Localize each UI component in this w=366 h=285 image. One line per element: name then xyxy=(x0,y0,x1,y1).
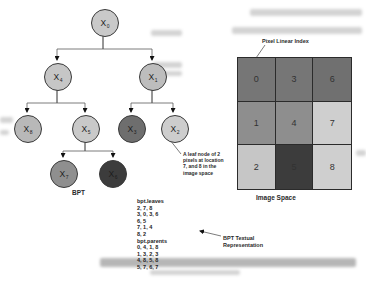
grid-cell-label: 2 xyxy=(254,162,259,172)
blurred-text-fragment xyxy=(0,117,13,123)
blurred-text-fragment xyxy=(0,130,9,135)
tree-node-label: X xyxy=(101,18,107,28)
textual-line: 7, 1, 4 xyxy=(137,224,167,231)
edge-x4-x8 xyxy=(27,89,57,112)
grid-cell-label: 0 xyxy=(254,74,259,84)
grid-cell-label: 1 xyxy=(254,118,259,128)
tree-node-label: X xyxy=(82,124,88,134)
textual-line: 6, 5 xyxy=(137,218,167,225)
node-subscript: 7 xyxy=(66,174,69,180)
bpt-textual-block: bpt.leaves 2, 7, 8 3, 0, 3, 6 6, 5 7, 1,… xyxy=(137,198,167,271)
bpt-figure: X0 X4 X1 X8 X5 X3 X2 X7 X6 BPT Pixel Lin… xyxy=(0,0,366,285)
tree-node-label: X xyxy=(54,72,60,82)
grid-cell-label: 5 xyxy=(291,162,296,172)
blurred-text-fragment xyxy=(356,150,366,156)
grid-cell-label: 7 xyxy=(330,118,335,128)
textual-line: 8, 2 xyxy=(137,231,167,238)
node-subscript: 5 xyxy=(88,129,91,135)
blurred-text-fragment xyxy=(232,27,362,34)
textual-line: 1, 3, 2, 3 xyxy=(137,251,167,258)
pixel-grid: 0 3 6 1 4 7 2 5 8 xyxy=(237,57,352,190)
grid-cell-0: 0 xyxy=(238,58,276,102)
node-subscript: 8 xyxy=(30,129,33,135)
grid-cell-label: 8 xyxy=(330,162,335,172)
blurred-text-fragment xyxy=(150,270,240,275)
tree-node-x0: X0 xyxy=(91,9,119,37)
node-subscript: 2 xyxy=(177,129,180,135)
tree-node-label: X xyxy=(149,72,155,82)
textual-line: bpt.parents xyxy=(137,238,167,245)
edge-x5-x7 xyxy=(63,141,85,157)
bpt-textual-representation-label: BPT Textual Representation xyxy=(223,235,263,248)
textual-line: 4, 8, 5, 8 xyxy=(137,257,167,264)
grid-cell-label: 4 xyxy=(291,118,296,128)
tree-node-label: X xyxy=(171,124,177,134)
textual-line: 2, 7, 8 xyxy=(137,205,167,212)
tree-node-x3: X3 xyxy=(118,115,146,143)
tree-node-label: X xyxy=(128,124,134,134)
image-space-caption: Image Space xyxy=(256,194,296,201)
textual-line: 5, 7, 6, 7 xyxy=(137,264,167,271)
tree-node-label: X xyxy=(24,124,30,134)
grid-cell-7: 7 xyxy=(313,102,351,146)
node-subscript: 6 xyxy=(115,174,118,180)
edge-x5-x6 xyxy=(85,141,113,157)
tree-node-x7: X7 xyxy=(50,160,78,188)
grid-cell-5: 5 xyxy=(276,145,314,189)
tree-node-label: X xyxy=(60,169,66,179)
textual-line: 0, 4, 1, 8 xyxy=(137,244,167,251)
grid-cell-2: 2 xyxy=(238,145,276,189)
grid-cell-label: 6 xyxy=(330,74,335,84)
tree-node-x8: X8 xyxy=(14,115,42,143)
edge-x0-x4 xyxy=(57,35,103,60)
tree-node-x1: X1 xyxy=(139,63,167,91)
edge-x1-x3 xyxy=(131,89,152,112)
leaf-annotation: A leaf node of 2 pixels at location 7, a… xyxy=(183,151,239,176)
grid-cell-3: 3 xyxy=(276,58,314,102)
blurred-text-fragment xyxy=(151,30,182,36)
blurred-text-fragment xyxy=(250,9,362,16)
node-subscript: 4 xyxy=(60,77,63,83)
node-subscript: 1 xyxy=(155,77,158,83)
tree-node-x5: X5 xyxy=(72,115,100,143)
edge-x0-x1 xyxy=(103,35,152,60)
edge-x4-x5 xyxy=(57,89,85,112)
grid-cell-label: 3 xyxy=(291,74,296,84)
pixel-linear-index-label: Pixel Linear Index xyxy=(262,38,309,44)
node-subscript: 3 xyxy=(134,129,137,135)
tree-node-x2: X2 xyxy=(161,115,189,143)
node-subscript: 0 xyxy=(107,23,110,29)
edge-x1-x2 xyxy=(152,89,173,112)
grid-cell-6: 6 xyxy=(313,58,351,102)
bpt-caption: BPT xyxy=(72,189,85,196)
grid-cell-4: 4 xyxy=(276,102,314,146)
tree-node-label: X xyxy=(109,169,115,179)
tree-node-x6: X6 xyxy=(99,160,127,188)
textual-repr-arrow xyxy=(200,231,221,236)
grid-cell-1: 1 xyxy=(238,102,276,146)
tree-node-x4: X4 xyxy=(44,63,72,91)
grid-cell-8: 8 xyxy=(313,145,351,189)
textual-line: 3, 0, 3, 6 xyxy=(137,211,167,218)
textual-line: bpt.leaves xyxy=(137,198,167,205)
